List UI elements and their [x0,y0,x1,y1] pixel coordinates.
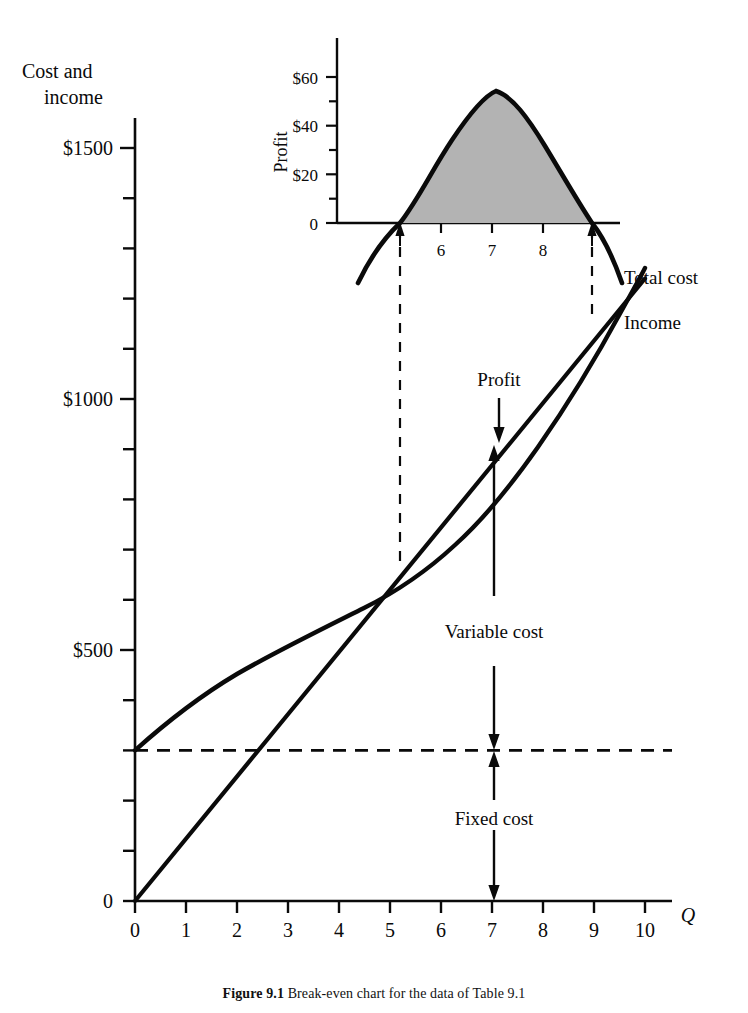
x-tick-label-10: 10 [635,919,655,941]
inset-x-tick-label-8: 8 [539,241,548,260]
inset-y-axis-title: Profit [271,131,291,172]
series-label-income: Income [624,312,681,333]
annotation-label-fixed-cost: Fixed cost [455,808,534,829]
x-tick-marks [135,901,645,913]
x-axis-label-q: Q [681,904,696,926]
x-tick-label-6: 6 [436,919,446,941]
y-tick-label-1500: $1500 [63,137,113,159]
y-tick-marks [120,148,135,901]
x-tick-label-9: 9 [589,919,599,941]
inset-y-tick-label-60: $60 [293,69,319,88]
annotation-label-variable-cost: Variable cost [445,621,544,642]
x-tick-label-1: 1 [181,919,191,941]
income-line [135,279,645,902]
inset-x-tick-label-6: 6 [437,241,446,260]
variable-cost-arrow [488,445,499,750]
y-tick-label-0: 0 [103,890,113,912]
total-cost-curve [135,268,645,750]
x-tick-label-2: 2 [232,919,242,941]
x-tick-label-3: 3 [283,919,293,941]
inset-y-tick-label-20: $20 [293,166,319,185]
inset-x-tick-marks [441,223,543,233]
figure-root: Cost and income [0,0,748,1013]
inset-x-tick-label-7: 7 [488,241,497,260]
x-tick-label-4: 4 [334,919,344,941]
break-even-figure: Cost and income [0,0,748,990]
x-tick-label-0: 0 [130,919,140,941]
annotation-label-profit: Profit [477,369,521,390]
y-tick-label-1000: $1000 [63,388,113,410]
y-tick-label-500: $500 [73,639,113,661]
inset-y-tick-label-40: $40 [293,117,319,136]
y-axis-title-line2: income [44,86,103,108]
x-tick-label-5: 5 [385,919,395,941]
x-tick-label-8: 8 [538,919,548,941]
series-label-total-cost: Total cost [624,267,699,288]
inset-profit-shaded-area [400,91,592,223]
main-chart: Cost and income [22,60,699,941]
inset-y-tick-marks [326,77,337,223]
inset-profit-chart: 0 $20 $40 $60 6 7 8 Profit [271,38,622,283]
figure-caption-text: Break-even chart for the data of Table 9… [288,986,526,1001]
figure-caption-label: Figure 9.1 [223,986,284,1001]
figure-caption: Figure 9.1 Break-even chart for the data… [0,986,748,1002]
profit-arrow [493,398,504,443]
y-axis-title-line1: Cost and [22,60,93,82]
inset-y-tick-label-0: 0 [310,215,319,234]
x-tick-label-7: 7 [487,919,497,941]
